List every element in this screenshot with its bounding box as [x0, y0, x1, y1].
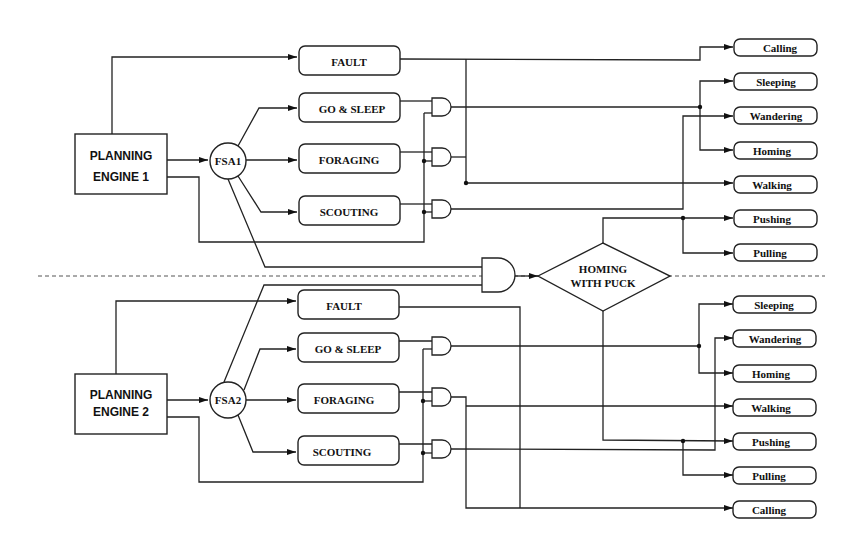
go-sleep-2-label: GO & SLEEP	[315, 343, 382, 355]
output-pulling-2-label: Pulling	[752, 470, 786, 482]
fault-2-label: FAULT	[326, 300, 362, 312]
output-homing-2-label: Homing	[752, 368, 790, 380]
planning-engine-2-box	[75, 374, 167, 434]
output-homing-1-label: Homing	[753, 145, 791, 157]
planning-engine-2-line1: PLANNING	[90, 388, 153, 402]
output-wandering-2-label: Wandering	[749, 333, 802, 345]
planning-engine-1-line2: ENGINE 1	[93, 170, 149, 184]
output-pushing-2-label: Pushing	[752, 436, 790, 448]
planning-engine-1-line1: PLANNING	[90, 149, 153, 163]
output-sleeping-1-label: Sleeping	[756, 76, 796, 88]
output-calling-2-label: Calling	[752, 504, 787, 516]
behavior-architecture-diagram: PLANNING ENGINE 1 FSA1 FAULT GO & SLEEP …	[0, 0, 863, 539]
homing-with-puck-line1: HOMING	[579, 263, 628, 275]
output-walking-1-label: Walking	[752, 179, 792, 191]
output-calling-1-label: Calling	[763, 42, 798, 54]
scouting-1-label: SCOUTING	[320, 206, 379, 218]
homing-with-puck-line2: WITH PUCK	[570, 277, 636, 289]
go-sleep-1-label: GO & SLEEP	[319, 103, 386, 115]
foraging-2-label: FORAGING	[314, 394, 375, 406]
output-wandering-1-label: Wandering	[750, 110, 803, 122]
fsa1-label: FSA1	[215, 155, 241, 167]
fault-1-label: FAULT	[331, 56, 367, 68]
planning-engine-2-line2: ENGINE 2	[93, 405, 149, 419]
outputs-section-2: Sleeping Wandering Homing Walking Pushin…	[733, 296, 816, 518]
output-pulling-1-label: Pulling	[753, 247, 787, 259]
and-gate-scouting-2	[432, 440, 451, 458]
planning-engine-1-box	[75, 134, 167, 194]
scouting-2-label: SCOUTING	[313, 446, 372, 458]
and-gate-homing-with-puck	[482, 258, 515, 292]
section-1: PLANNING ENGINE 1 FSA1 FAULT GO & SLEEP …	[75, 39, 817, 267]
outputs-section-1: Calling Sleeping Wandering Homing Walkin…	[734, 39, 817, 261]
and-gate-go-sleep-1	[432, 98, 451, 116]
section-2: PLANNING ENGINE 2 FSA2 FAULT GO & SLEEP …	[75, 290, 816, 518]
and-gate-foraging-2	[432, 388, 451, 406]
output-sleeping-2-label: Sleeping	[754, 299, 794, 311]
foraging-1-label: FORAGING	[319, 154, 380, 166]
and-gate-go-sleep-2	[432, 337, 451, 355]
and-gate-foraging-1	[432, 148, 451, 166]
and-gate-scouting-1	[432, 200, 451, 218]
output-pushing-1-label: Pushing	[753, 213, 791, 225]
output-walking-2-label: Walking	[751, 402, 791, 414]
fsa2-label: FSA2	[215, 394, 242, 406]
